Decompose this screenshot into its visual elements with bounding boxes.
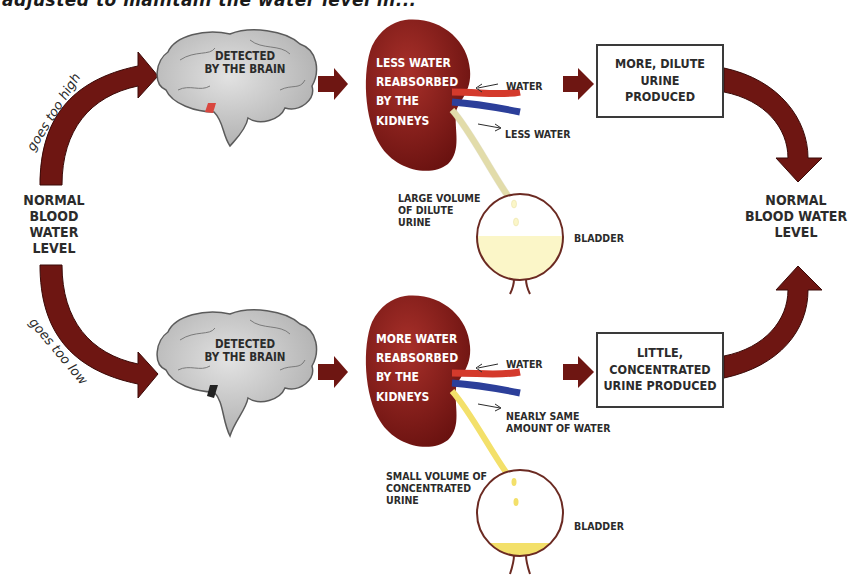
- box-line: PRODUCED: [615, 89, 705, 106]
- result-box-more-dilute-urine: MORE, DILUTE URINE PRODUCED: [596, 44, 724, 118]
- arrow-bottom-to-normal: [724, 266, 822, 378]
- label-line: NORMAL: [4, 192, 104, 208]
- kidney-top-label: LESS WATER REABSORBED BY THE KIDNEYS: [376, 54, 458, 131]
- normal-blood-water-level-left: NORMAL BLOOD WATER LEVEL: [4, 192, 104, 256]
- label-line: REABSORBED: [376, 73, 458, 92]
- brain-top-label: DETECTED BY THE BRAIN: [190, 50, 300, 76]
- box-line: CONCENTRATED: [603, 362, 716, 379]
- bladder-label-top: BLADDER: [574, 232, 624, 244]
- label-line: BY THE: [376, 368, 458, 387]
- label-line: URINE: [398, 216, 480, 228]
- arrow-top-to-normal: [724, 68, 822, 182]
- bladder-label-bottom: BLADDER: [574, 520, 624, 532]
- label-line: LESS WATER: [376, 54, 458, 73]
- result-box-little-concentrated-urine: LITTLE, CONCENTRATED URINE PRODUCED: [596, 332, 724, 408]
- label-line: BLOOD WATER: [4, 208, 104, 240]
- box-line: MORE, DILUTE: [615, 56, 705, 73]
- kidney-to-box-arrow-top: [563, 68, 594, 100]
- water-out-label-top: LESS WATER: [505, 128, 571, 140]
- label-line: NEARLY SAME: [506, 410, 610, 422]
- label-line: MORE WATER: [376, 330, 458, 349]
- label-line: LEVEL: [744, 224, 848, 240]
- kidney-to-box-arrow-bottom: [563, 356, 594, 388]
- label-line: AMOUNT OF WATER: [506, 422, 610, 434]
- water-out-label-bottom: NEARLY SAME AMOUNT OF WATER: [506, 410, 610, 434]
- label-line: BY THE BRAIN: [190, 63, 300, 76]
- label-line: OF DILUTE: [398, 204, 480, 216]
- label-line: SMALL VOLUME OF: [386, 470, 487, 482]
- box-line: URINE: [615, 73, 705, 90]
- label-line: REABSORBED: [376, 349, 458, 368]
- urine-label-top: LARGE VOLUME OF DILUTE URINE: [398, 192, 480, 228]
- label-line: KIDNEYS: [376, 112, 458, 131]
- label-line: CONCENTRATED: [386, 482, 487, 494]
- brain-bottom: [157, 310, 316, 436]
- brain-top-to-kidney-arrow: [318, 68, 348, 100]
- brain-bottom-label: DETECTED BY THE BRAIN: [190, 338, 300, 364]
- label-line: URINE: [386, 494, 487, 506]
- arrow-goes-low: [40, 265, 158, 398]
- label-line: LARGE VOLUME: [398, 192, 480, 204]
- label-line: BY THE: [376, 92, 458, 111]
- bladder-top: [470, 194, 570, 296]
- box-line: LITTLE,: [603, 345, 716, 362]
- label-line: KIDNEYS: [376, 388, 458, 407]
- label-line: BY THE BRAIN: [190, 351, 300, 364]
- label-line: LEVEL: [4, 240, 104, 256]
- kidney-bottom-label: MORE WATER REABSORBED BY THE KIDNEYS: [376, 330, 458, 407]
- brain-top: [157, 30, 316, 146]
- label-line: BLOOD WATER: [744, 208, 848, 224]
- box-line: URINE PRODUCED: [603, 378, 716, 395]
- water-in-label-top: WATER: [506, 80, 543, 92]
- brain-bottom-to-kidney-arrow: [318, 356, 348, 388]
- urine-label-bottom: SMALL VOLUME OF CONCENTRATED URINE: [386, 470, 487, 506]
- water-in-label-bottom: WATER: [506, 358, 543, 370]
- normal-blood-water-level-right: NORMAL BLOOD WATER LEVEL: [744, 192, 848, 240]
- label-line: NORMAL: [744, 192, 848, 208]
